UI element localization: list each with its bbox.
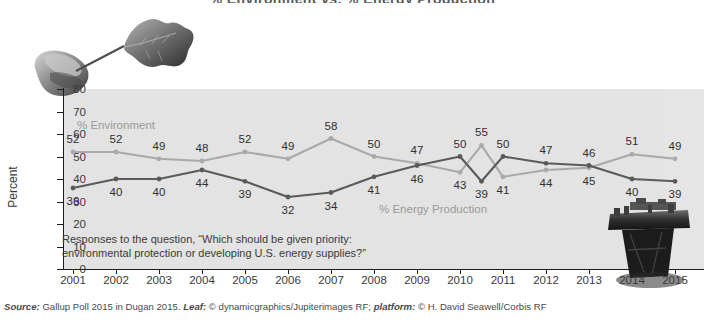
data-point-label: 43 — [454, 179, 467, 191]
data-point — [114, 177, 119, 182]
data-point — [71, 186, 76, 191]
data-point-label: 52 — [239, 133, 252, 145]
data-point — [200, 159, 205, 164]
data-point-label: 41 — [497, 184, 510, 196]
data-point — [630, 152, 635, 157]
data-point-label: 41 — [368, 184, 381, 196]
data-point-label: 34 — [325, 200, 338, 212]
data-point-label: 46 — [411, 173, 424, 185]
data-point-label: 52 — [110, 133, 123, 145]
data-point-label: 40 — [626, 186, 639, 198]
data-point — [544, 168, 549, 173]
chart-annotation: Responses to the question, “Which should… — [62, 232, 392, 260]
data-point — [630, 177, 635, 182]
data-point-label: 50 — [368, 138, 381, 150]
source-prefix: Source: — [4, 301, 40, 312]
data-point-label: 49 — [282, 140, 295, 152]
data-point — [544, 161, 549, 166]
data-point — [372, 154, 377, 159]
data-point — [329, 136, 334, 141]
legend-label-environment: % Environment — [77, 119, 155, 131]
source-text: Gallup Poll 2015 in Dugan 2015. — [40, 301, 183, 312]
data-point — [71, 150, 76, 155]
data-point-label: 44 — [540, 177, 553, 189]
platform-credit-label: platform: — [374, 301, 416, 312]
data-point — [114, 150, 119, 155]
data-point-label: 32 — [282, 204, 295, 216]
data-point-label: 46 — [583, 147, 596, 159]
data-point — [587, 163, 592, 168]
data-point-label: 40 — [153, 186, 166, 198]
data-point-label: 39 — [669, 188, 682, 200]
data-point — [157, 156, 162, 161]
data-point — [415, 163, 420, 168]
data-point — [372, 174, 377, 179]
leaf-credit-text: © dynamicgraphics/Jupiterimages RF; — [206, 301, 374, 312]
data-point-label: 47 — [540, 144, 553, 156]
data-point-label: 51 — [626, 135, 639, 147]
data-point-label: 55 — [475, 126, 488, 138]
data-point — [673, 156, 678, 161]
data-point — [501, 154, 506, 159]
series-group — [0, 0, 705, 323]
data-point — [243, 150, 248, 155]
data-point — [501, 174, 506, 179]
data-point-label: 50 — [497, 138, 510, 150]
data-point-label: 48 — [196, 142, 209, 154]
data-point-label: 50 — [454, 138, 467, 150]
data-point — [479, 143, 484, 148]
source-caption: Source: Gallup Poll 2015 in Dugan 2015. … — [4, 301, 547, 312]
platform-credit-text: © H. David Seawell/Corbis RF — [415, 301, 546, 312]
data-point-label: 52 — [67, 133, 80, 145]
data-point — [479, 179, 484, 184]
leaf-credit-label: Leaf: — [183, 301, 206, 312]
data-point-label: 47 — [411, 144, 424, 156]
chart-figure: % Environment vs. % Energy Production — [0, 0, 705, 323]
data-point — [200, 168, 205, 173]
legend-label-energy: % Energy Production — [379, 203, 487, 215]
data-point — [286, 195, 291, 200]
data-point-label: 39 — [475, 188, 488, 200]
data-point — [458, 170, 463, 175]
data-point-label: 44 — [196, 177, 209, 189]
data-point — [243, 179, 248, 184]
data-point — [673, 179, 678, 184]
data-point-label: 36 — [67, 195, 80, 207]
data-point-label: 40 — [110, 186, 123, 198]
data-point — [329, 190, 334, 195]
data-point — [157, 177, 162, 182]
data-point-label: 39 — [239, 188, 252, 200]
data-point-label: 58 — [325, 120, 338, 132]
data-point-label: 45 — [583, 175, 596, 187]
data-point — [458, 154, 463, 159]
data-point-label: 49 — [669, 140, 682, 152]
data-point-label: 49 — [153, 140, 166, 152]
data-point — [286, 156, 291, 161]
